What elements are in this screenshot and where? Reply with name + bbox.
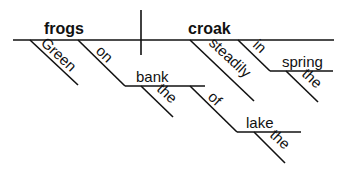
modifier-steadily: steadily	[206, 34, 255, 81]
preposition-in: in	[250, 36, 270, 56]
object-lake: lake	[246, 114, 274, 131]
sentence-diagram: frogs croak Green on bank the of lake th…	[0, 0, 343, 172]
preposition-of: of	[205, 88, 226, 110]
verb-word: croak	[188, 20, 231, 37]
preposition-on: on	[93, 42, 117, 66]
object-spring: spring	[282, 53, 323, 70]
